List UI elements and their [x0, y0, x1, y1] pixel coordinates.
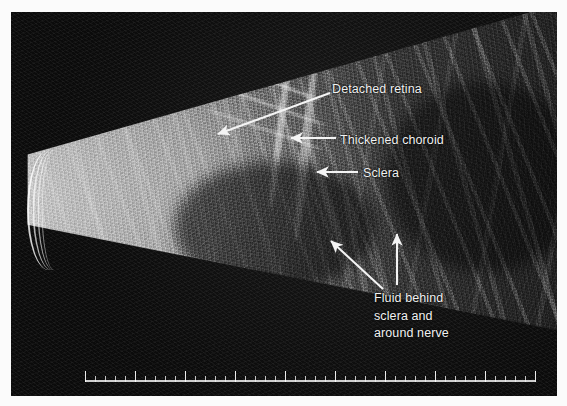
ruler-tick-minor	[325, 376, 326, 382]
ruler-tick-minor	[255, 376, 256, 382]
ruler-tick-minor	[505, 376, 506, 382]
ruler-tick-major	[385, 371, 386, 382]
ruler-tick-major	[235, 371, 236, 382]
ruler-tick-minor	[375, 376, 376, 382]
ruler-tick-minor	[305, 376, 306, 382]
ruler-tick-minor	[95, 376, 96, 382]
ruler-tick-major	[535, 371, 536, 382]
ruler-tick-major	[285, 371, 286, 382]
ruler-tick-minor	[125, 376, 126, 382]
ruler-tick-minor	[175, 376, 176, 382]
scan-image: Detached retina Thickened choroid Sclera…	[11, 12, 557, 396]
label-thickened-choroid: Thickened choroid	[340, 132, 444, 150]
label-detached-retina: Detached retina	[332, 81, 422, 99]
ruler-tick-minor	[365, 376, 366, 382]
ruler-tick-minor	[205, 376, 206, 382]
ruler-tick-minor	[145, 376, 146, 382]
ruler-tick-minor	[425, 376, 426, 382]
label-sclera: Sclera	[363, 165, 399, 183]
ruler-tick-major	[335, 371, 336, 382]
ruler-tick-minor	[215, 376, 216, 382]
ruler-tick-minor	[515, 376, 516, 382]
ruler-tick-minor	[265, 376, 266, 382]
ruler-tick-minor	[275, 376, 276, 382]
ruler-tick-minor	[465, 376, 466, 382]
label-fluid-behind-sclera: Fluid behind sclera and around nerve	[374, 290, 449, 343]
ruler-tick-minor	[105, 376, 106, 382]
ruler-tick-minor	[495, 376, 496, 382]
ruler-tick-minor	[245, 376, 246, 382]
ruler-tick-minor	[115, 376, 116, 382]
ruler-tick-minor	[225, 376, 226, 382]
ruler-tick-major	[85, 371, 86, 382]
ruler-tick-minor	[315, 376, 316, 382]
probe-arc	[41, 150, 67, 270]
ruler-tick-minor	[345, 376, 346, 382]
ruler-tick-major	[135, 371, 136, 382]
ruler-tick-minor	[195, 376, 196, 382]
ruler-tick-minor	[165, 376, 166, 382]
ruler-tick-minor	[445, 376, 446, 382]
ruler-tick-minor	[405, 376, 406, 382]
ruler-tick-minor	[455, 376, 456, 382]
ruler-tick-minor	[475, 376, 476, 382]
ruler-tick-minor	[395, 376, 396, 382]
ruler-tick-major	[185, 371, 186, 382]
ruler-tick-minor	[415, 376, 416, 382]
ruler-axis	[85, 380, 535, 382]
transducer-face	[27, 150, 69, 270]
ruler-tick-major	[485, 371, 486, 382]
ruler-tick-minor	[155, 376, 156, 382]
ruler-tick-minor	[295, 376, 296, 382]
ultrasound-figure: Detached retina Thickened choroid Sclera…	[0, 0, 567, 406]
ruler-tick-minor	[355, 376, 356, 382]
ruler-tick-major	[435, 371, 436, 382]
depth-ruler	[85, 368, 535, 382]
ruler-tick-minor	[525, 376, 526, 382]
